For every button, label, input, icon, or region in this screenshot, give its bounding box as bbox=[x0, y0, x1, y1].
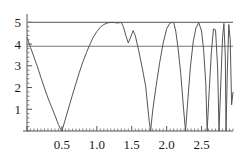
x-tick-label: 0.5 bbox=[54, 137, 70, 152]
y-tick-label: 4 bbox=[15, 37, 22, 52]
y-axis bbox=[27, 14, 32, 131]
y-tick-label: 1 bbox=[15, 102, 22, 117]
x-axis bbox=[23, 126, 233, 131]
x-tick-labels: 0.51.01.52.02.5 bbox=[54, 137, 210, 152]
x-tick-label: 1.0 bbox=[89, 137, 105, 152]
y-tick-labels: 12345 bbox=[15, 15, 22, 117]
y-tick-label: 3 bbox=[15, 58, 22, 73]
y-tick-label: 5 bbox=[15, 15, 22, 30]
data-series bbox=[27, 22, 233, 131]
chart-container: 12345 0.51.01.52.02.5 bbox=[0, 0, 238, 164]
x-tick-label: 1.5 bbox=[124, 137, 140, 152]
x-tick-label: 2.0 bbox=[159, 137, 175, 152]
x-tick-label: 2.5 bbox=[193, 137, 209, 152]
oscillation-plot: 12345 0.51.01.52.02.5 bbox=[0, 0, 238, 164]
y-tick-label: 2 bbox=[15, 80, 22, 95]
